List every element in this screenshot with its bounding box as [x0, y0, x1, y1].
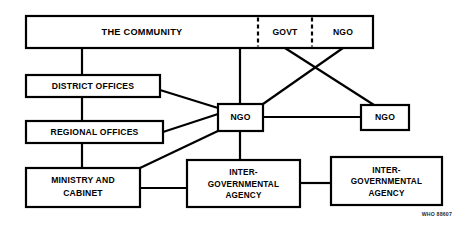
- diagram-canvas: THE COMMUNITY GOVT NGO DISTRICT OFFICES …: [0, 0, 462, 227]
- agency-right-label-line3: AGENCY: [368, 189, 405, 198]
- agency-right-label-line1: INTER-: [372, 166, 401, 175]
- ministry-cabinet-label-line2: CABINET: [63, 188, 103, 198]
- agency-right-label-line2: GOVERNMENTAL: [351, 177, 422, 186]
- node-ngo-center[interactable]: NGO: [218, 104, 263, 131]
- figure-caption: WHO 88607: [422, 211, 452, 217]
- district-offices-label: DISTRICT OFFICES: [52, 81, 135, 91]
- ngo-top-label: NGO: [333, 27, 353, 37]
- govt-label: GOVT: [272, 27, 298, 37]
- node-agency-middle[interactable]: INTER- GOVERNMENTAL AGENCY: [187, 160, 300, 207]
- regional-offices-label: REGIONAL OFFICES: [50, 127, 138, 137]
- node-ministry-cabinet[interactable]: MINISTRY AND CABINET: [26, 168, 140, 207]
- ngo-right-label: NGO: [375, 112, 395, 122]
- connector-ngotop-ngo-center: [263, 48, 343, 104]
- connector-regional-ngo-center: [163, 114, 218, 132]
- agency-middle-label-line3: AGENCY: [225, 191, 262, 200]
- ngo-center-label: NGO: [230, 112, 250, 122]
- node-regional-offices[interactable]: REGIONAL OFFICES: [26, 121, 163, 143]
- node-ngo-right[interactable]: NGO: [361, 105, 409, 130]
- org-diagram: THE COMMUNITY GOVT NGO DISTRICT OFFICES …: [0, 0, 462, 227]
- community-label: THE COMMUNITY: [102, 27, 183, 37]
- node-agency-right[interactable]: INTER- GOVERNMENTAL AGENCY: [331, 157, 442, 205]
- node-community-bar[interactable]: THE COMMUNITY GOVT NGO: [26, 16, 373, 48]
- ministry-cabinet-label-line1: MINISTRY AND: [51, 175, 115, 185]
- connector-district-ngo-center: [160, 90, 218, 108]
- agency-middle-label-line1: INTER-: [229, 168, 258, 177]
- community-bar-outline: [26, 16, 373, 48]
- agency-middle-label-line2: GOVERNMENTAL: [208, 180, 279, 189]
- node-district-offices[interactable]: DISTRICT OFFICES: [26, 75, 160, 97]
